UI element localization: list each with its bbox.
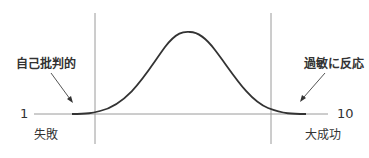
left-arrow-head <box>67 96 73 103</box>
axis-min-label: 1 <box>20 106 28 121</box>
annotation-self-critical: 自己批判的 <box>16 57 76 71</box>
axis-max-label: 10 <box>337 106 354 121</box>
right-arrow-line <box>304 73 325 97</box>
annotation-overreact: 過敏に反応 <box>304 57 364 71</box>
axis-min-caption: 失敗 <box>34 128 58 142</box>
left-arrow-line <box>51 73 70 99</box>
axis-max-caption: 大成功 <box>305 128 341 142</box>
